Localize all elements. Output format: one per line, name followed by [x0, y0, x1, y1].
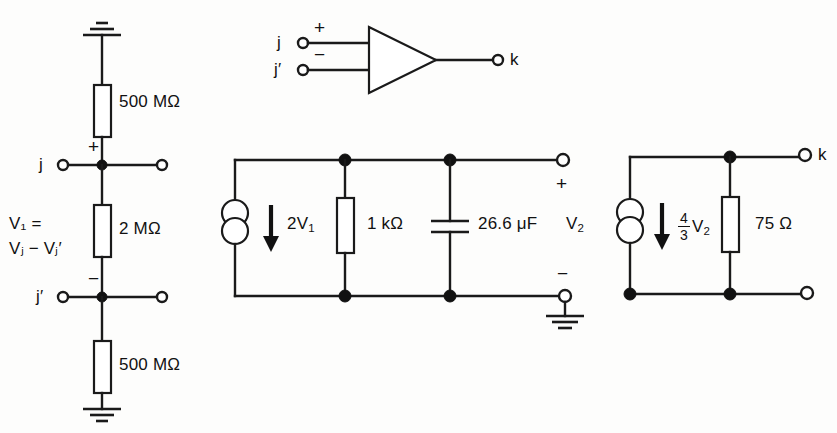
current-source-4-3-V2-icon: [617, 199, 643, 243]
label-source-fraction-numerator: 4: [678, 211, 690, 226]
label-v1-definition-line1: V₁ =: [9, 212, 42, 237]
label-capacitor-26-6uF: 26.6 μF: [478, 214, 537, 234]
label-resistor-500M-bottom: 500 MΩ: [119, 355, 180, 375]
label-v1-definition-line2: Vⱼ − Vⱼ′: [9, 237, 62, 262]
terminal-amp-output-k[interactable]: [493, 55, 503, 65]
label-v2-subscript: 2: [578, 222, 585, 234]
terminal-amp-input-plus[interactable]: [298, 38, 308, 48]
node-dot-stage2-src-bottom: [624, 288, 636, 300]
terminal-amp-input-minus[interactable]: [298, 65, 308, 75]
terminal-j-left[interactable]: [58, 160, 68, 170]
resistor-2M-middle: [94, 205, 111, 257]
label-resistor-75: 75 Ω: [755, 214, 792, 234]
label-source-2V1-text: 2V: [287, 214, 308, 233]
label-source-4-3-V2-subscript: 2: [704, 225, 711, 237]
label-output-voltage-v2: V2: [566, 214, 584, 234]
resistor-500M-top: [94, 85, 111, 137]
amplifier-triangle-icon: [369, 27, 436, 93]
label-source-fraction: 43: [678, 211, 690, 242]
input-top-ground-icon: [83, 23, 121, 35]
label-source-fraction-denominator: 3: [678, 226, 690, 242]
label-amp-input-minus-sign: −: [314, 44, 325, 66]
resistor-75: [722, 197, 739, 252]
label-node-j-plus-sign: +: [88, 136, 99, 158]
terminal-jprime-left[interactable]: [58, 292, 68, 302]
label-amp-input-jprime: j′: [274, 60, 281, 80]
label-resistor-2M: 2 MΩ: [119, 219, 161, 239]
label-amp-output-k: k: [510, 50, 519, 70]
label-node-jprime: j′: [36, 287, 43, 307]
terminal-v2-plus[interactable]: [557, 154, 569, 166]
mid-ground-icon: [546, 316, 584, 328]
node-dot-stage1-bottom: [339, 290, 351, 302]
label-resistor-500M-top: 500 MΩ: [119, 92, 180, 112]
schematic-canvas: 500 MΩ 2 MΩ 500 MΩ j + j′ − V₁ = Vⱼ − Vⱼ…: [0, 0, 837, 433]
resistor-1k: [337, 198, 354, 253]
label-v2-plus-sign: +: [556, 173, 567, 195]
current-arrow-4-3-V2-icon: [654, 203, 670, 250]
label-source-2V1: 2V1: [287, 214, 315, 234]
label-v2-text: V: [566, 214, 578, 233]
label-source-4-3-V2: 43V2: [678, 212, 710, 243]
label-v2-minus-sign: −: [557, 263, 568, 285]
terminal-jprime-right[interactable]: [157, 292, 167, 302]
label-output-terminal-k: k: [818, 145, 827, 165]
label-resistor-1k: 1 kΩ: [367, 214, 403, 234]
stage-one-group: [222, 154, 584, 328]
resistor-500M-bottom: [94, 341, 111, 393]
node-dot-cap-bottom: [444, 290, 456, 302]
terminal-j-right[interactable]: [157, 160, 167, 170]
amplifier-group: [298, 27, 503, 93]
current-arrow-2V1-icon: [263, 205, 279, 252]
label-node-j: j: [39, 155, 43, 175]
label-amp-input-j: j: [277, 33, 281, 53]
label-source-4-3-V2-text: V: [692, 217, 704, 236]
current-source-2V1-icon: [222, 200, 248, 244]
input-bottom-ground-icon: [83, 409, 121, 421]
terminal-output-k-bottom[interactable]: [801, 287, 813, 299]
terminal-v2-minus-ground[interactable]: [559, 290, 571, 302]
capacitor-26-6uF-icon: [431, 221, 469, 232]
terminal-output-k-top[interactable]: [799, 149, 811, 161]
label-amp-input-plus-sign: +: [314, 17, 325, 39]
label-source-2V1-subscript: 1: [308, 222, 315, 234]
node-dot-stage2-bottom: [724, 288, 736, 300]
label-node-jprime-minus-sign: −: [88, 268, 99, 290]
